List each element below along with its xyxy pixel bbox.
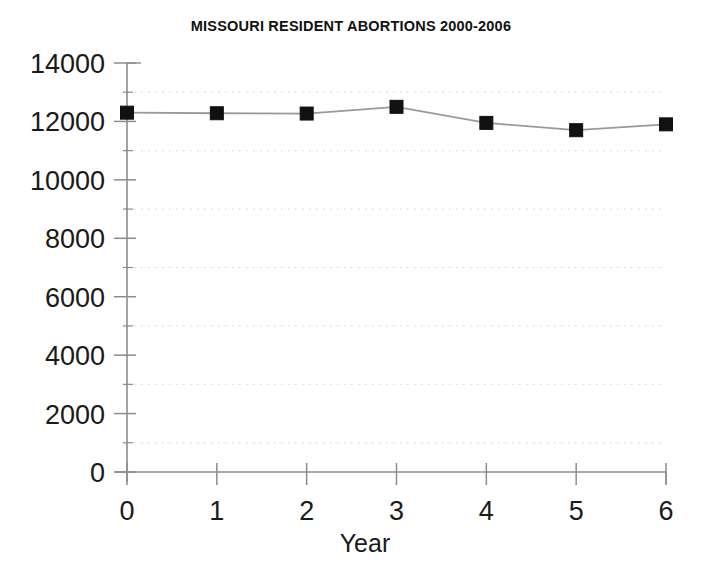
y-axis-tick-label: 0: [90, 458, 105, 488]
data-point-marker: 4: 11950: [480, 116, 493, 129]
x-axis-tick-label: 6: [658, 496, 673, 526]
y-axis-tick-label: 6000: [45, 283, 105, 313]
x-axis-tick-label: 0: [119, 496, 134, 526]
x-axis-tick-label: 4: [479, 496, 494, 526]
axis-lines: [115, 63, 666, 484]
y-axis-tick-label: 10000: [30, 166, 105, 196]
y-axis-tick-label: 4000: [45, 341, 105, 371]
data-point-marker: 3: 12500: [390, 100, 403, 113]
data-point-marker: 1: 12280: [210, 107, 223, 120]
y-axis-tick-label: 14000: [30, 49, 105, 79]
gridlines-minor: [127, 92, 666, 443]
data-point-marker: 2: 12270: [300, 107, 313, 120]
data-series-markers: 0: 123001: 122802: 122703: 125004: 11950…: [121, 100, 673, 136]
x-axis-tick-labels: 0123456: [119, 496, 673, 526]
x-axis-tick-label: 2: [299, 496, 314, 526]
y-axis-tick-labels: 02000400060008000100001200014000: [30, 49, 105, 488]
data-point-marker: 6: 11900: [660, 118, 673, 131]
y-axis-tick-label: 12000: [30, 107, 105, 137]
y-axis-minor-ticks: [123, 92, 133, 443]
x-axis-major-ticks: [127, 463, 666, 485]
x-axis-title: Year: [340, 529, 391, 557]
line-chart-plot: 02000400060008000100001200014000 0123456…: [0, 0, 702, 585]
y-axis-tick-label: 8000: [45, 224, 105, 254]
data-point-marker: 5: 11700: [570, 124, 583, 137]
x-axis-tick-label: 1: [209, 496, 224, 526]
y-axis-tick-label: 2000: [45, 400, 105, 430]
chart-container: MISSOURI RESIDENT ABORTIONS 2000-2006 02…: [0, 0, 702, 585]
data-point-marker: 0: 12300: [121, 106, 134, 119]
x-axis-tick-label: 3: [389, 496, 404, 526]
x-axis-tick-label: 5: [569, 496, 584, 526]
